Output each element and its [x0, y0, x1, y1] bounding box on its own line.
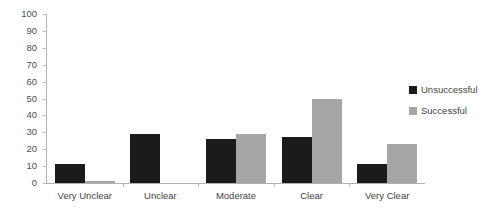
x-axis-separator	[349, 183, 350, 187]
x-axis-label: Moderate	[198, 189, 274, 209]
legend-label: Unsuccessful	[421, 84, 478, 96]
bar-chart: 0102030405060708090100 Very UnclearUncle…	[0, 0, 496, 214]
y-axis-tick-label: 20	[26, 142, 37, 155]
bar	[357, 164, 387, 183]
bar	[206, 139, 236, 183]
x-axis-line	[46, 183, 425, 184]
x-axis-separator	[123, 183, 124, 187]
y-axis-ticks: 0102030405060708090100	[0, 0, 47, 183]
bar-group	[47, 14, 123, 183]
bar-group	[349, 14, 425, 183]
legend-label: Successful	[421, 105, 467, 117]
y-axis-tick-label: 40	[26, 108, 37, 121]
y-axis-tick-label: 80	[26, 41, 37, 54]
x-axis-label: Very Clear	[349, 189, 425, 209]
bar	[387, 144, 417, 183]
bar	[85, 181, 115, 183]
x-axis-label: Very Unclear	[47, 189, 123, 209]
y-axis-tick-label: 10	[26, 159, 37, 172]
bar	[282, 137, 312, 183]
x-axis-separator	[198, 183, 199, 187]
bar	[130, 134, 160, 183]
y-axis-tick-label: 70	[26, 58, 37, 71]
bar	[55, 164, 85, 183]
y-axis-tick-label: 0	[32, 176, 37, 189]
x-axis-separator	[274, 183, 275, 187]
y-axis-tick-label: 90	[26, 24, 37, 37]
y-axis-tick-label: 100	[21, 7, 37, 20]
y-axis-tick-label: 50	[26, 92, 37, 105]
x-axis-labels: Very UnclearUnclearModerateClearVery Cle…	[47, 189, 425, 209]
bar	[236, 134, 266, 183]
y-axis-tick-label: 60	[26, 75, 37, 88]
bar-group	[274, 14, 350, 183]
bar-group	[123, 14, 199, 183]
bar-group	[198, 14, 274, 183]
x-axis-label: Clear	[274, 189, 350, 209]
x-axis-label: Unclear	[123, 189, 199, 209]
bar	[312, 99, 342, 184]
y-axis-tick-label: 30	[26, 125, 37, 138]
